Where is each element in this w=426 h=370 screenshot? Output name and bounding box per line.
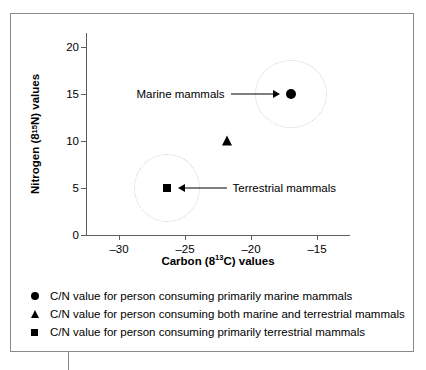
legend-row: C/N value for person consuming primarily… <box>31 287 401 305</box>
triangle-icon <box>31 310 39 318</box>
x-axis-title: Carbon (813C) values <box>86 255 350 267</box>
isotope-scatter-figure: Nitrogen (815N) values Carbon (813C) val… <box>0 0 426 370</box>
y-axis-title-pre: Nitrogen (8 <box>29 133 41 194</box>
y-tick-mark <box>81 94 86 95</box>
y-tick-label: 5 <box>73 182 79 194</box>
y-tick-mark <box>81 188 86 189</box>
y-tick-label: 0 <box>73 229 79 241</box>
x-tick-label: –30 <box>109 243 128 255</box>
y-tick-label: 15 <box>66 88 79 100</box>
circle-icon <box>31 292 39 300</box>
x-tick-mark <box>251 235 252 240</box>
y-tick-mark <box>81 47 86 48</box>
annotation-arrow-line <box>185 188 227 189</box>
x-tick-mark <box>119 235 120 240</box>
terrestrial-mammals-annotation: Terrestrial mammals <box>233 182 337 194</box>
y-axis-title: Nitrogen (815N) values <box>27 33 43 235</box>
x-axis-line <box>86 235 350 236</box>
legend-label: C/N value for person consuming primarily… <box>50 290 352 302</box>
legend-marker-square <box>31 329 45 336</box>
annotation-arrow-line <box>231 94 273 95</box>
legend-row: C/N value for person consuming both mari… <box>31 305 401 323</box>
mixed-diet-point <box>222 136 232 146</box>
annotation-arrowhead <box>178 184 185 192</box>
terrestrial-mammals-point <box>163 184 171 192</box>
legend-marker-circle <box>31 292 45 300</box>
legend-marker-triangle <box>31 310 45 318</box>
marine-mammals-annotation: Marine mammals <box>136 88 224 100</box>
annotation-arrowhead <box>273 90 280 98</box>
y-axis-line <box>86 33 87 235</box>
y-tick-label: 10 <box>66 135 79 147</box>
x-tick-mark <box>317 235 318 240</box>
legend-label: C/N value for person consuming both mari… <box>50 308 405 320</box>
square-icon <box>31 329 38 336</box>
x-tick-label: –25 <box>175 243 194 255</box>
legend-label: C/N value for person consuming primarily… <box>50 326 365 338</box>
x-tick-label: –20 <box>241 243 260 255</box>
legend-row: C/N value for person consuming primarily… <box>31 323 401 341</box>
y-tick-mark <box>81 235 86 236</box>
x-axis-title-pre: Carbon (8 <box>161 255 215 267</box>
plot-area: 05101520 –30–25–20–15 Marine mammalsTerr… <box>86 33 350 235</box>
y-axis-title-post: N) values <box>29 74 41 125</box>
x-axis-title-post: C) values <box>223 255 274 267</box>
x-tick-label: –15 <box>307 243 326 255</box>
x-tick-mark <box>185 235 186 240</box>
y-tick-mark <box>81 141 86 142</box>
marine-mammals-point <box>286 89 296 99</box>
frame-stub-line <box>68 352 69 370</box>
chart-legend: C/N value for person consuming primarily… <box>31 287 401 341</box>
y-tick-label: 20 <box>66 41 79 53</box>
